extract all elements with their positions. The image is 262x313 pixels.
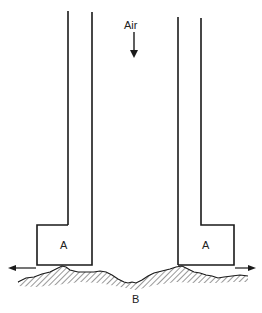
surface-label: B [132,294,139,305]
diagram: Air A A B [0,0,262,313]
rough-surface [18,266,248,290]
block-left-label: A [60,240,67,251]
left-nozzle [37,11,92,265]
air-label: Air [124,20,137,31]
air-flow-arrow [130,32,138,58]
block-right-label: A [202,240,209,251]
diagram-drawing [0,0,262,313]
left-outflow-arrow [8,265,36,271]
right-nozzle [178,17,234,265]
right-outflow-arrow [235,265,256,271]
